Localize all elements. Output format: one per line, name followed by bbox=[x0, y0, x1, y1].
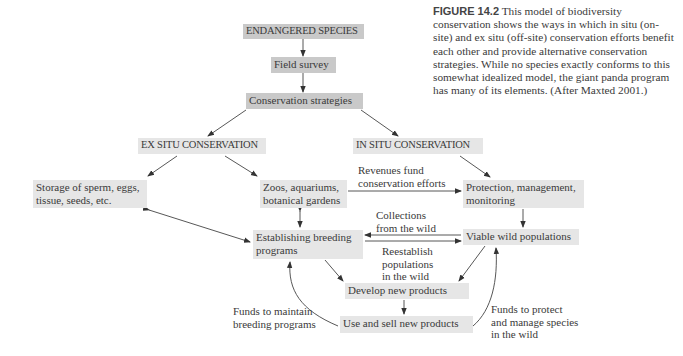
figure-label: FIGURE 14.2 bbox=[433, 5, 499, 17]
node-develop-new-products: Develop new products bbox=[345, 283, 469, 299]
label-collections-line2: from the wild bbox=[376, 222, 436, 235]
arrow-strategies-to-ex-situ bbox=[208, 110, 246, 136]
node-zoos-line2: botanical gardens bbox=[263, 194, 344, 207]
node-zoos-line1: Zoos, aquariums, bbox=[263, 181, 344, 194]
node-field-survey: Field survey bbox=[271, 57, 336, 73]
label-reestablish-line1: Reestablish bbox=[382, 245, 433, 258]
label-revenues: Revenues fund conservation efforts bbox=[358, 164, 445, 189]
arrow-viable-to-develop bbox=[459, 246, 485, 281]
node-storage-line1: Storage of sperm, eggs, bbox=[36, 181, 144, 194]
node-use-sell-products: Use and sell new products bbox=[340, 316, 473, 333]
node-protection: Protection, management, monitoring bbox=[463, 180, 584, 208]
label-funds-protect-line1: Funds to protect bbox=[491, 303, 578, 316]
label-funds-breeding: Funds to maintain breeding programs bbox=[233, 305, 316, 330]
arrow-in-situ-to-protection bbox=[460, 156, 490, 177]
caption-text: This model of biodiversity conservation … bbox=[433, 5, 674, 96]
label-revenues-line2: conservation efforts bbox=[358, 177, 445, 190]
label-reestablish-line2: populations bbox=[382, 258, 433, 271]
arrow-strategies-to-in-situ bbox=[361, 110, 398, 136]
node-in-situ-conservation: IN SITU CONSERVATION bbox=[353, 138, 483, 154]
label-collections-line1: Collections bbox=[376, 209, 436, 222]
label-reestablish-line3: in the wild bbox=[382, 270, 433, 283]
arrow-storage-breeding-bidirectional bbox=[149, 210, 250, 242]
node-ex-situ-conservation: EX SITU CONSERVATION bbox=[138, 138, 266, 154]
label-reestablish: Reestablish populations in the wild bbox=[382, 245, 433, 283]
node-breeding-line2: programs bbox=[256, 244, 360, 257]
label-revenues-line1: Revenues fund bbox=[358, 164, 445, 177]
node-zoos: Zoos, aquariums, botanical gardens bbox=[260, 180, 347, 208]
node-protection-line1: Protection, management, bbox=[466, 181, 581, 194]
node-storage: Storage of sperm, eggs, tissue, seeds, e… bbox=[33, 180, 147, 208]
arrow-ex-situ-to-storage bbox=[148, 156, 177, 176]
node-endangered-species: ENDANGERED SPECIES bbox=[243, 24, 364, 39]
node-breeding-line1: Establishing breeding bbox=[256, 231, 360, 244]
arrow-ex-situ-to-zoos bbox=[225, 156, 257, 176]
label-funds-breeding-line2: breeding programs bbox=[233, 318, 316, 331]
label-funds-protect: Funds to protect and manage species in t… bbox=[491, 303, 578, 341]
node-protection-line2: monitoring bbox=[466, 194, 581, 207]
arrow-breeding-to-develop bbox=[325, 260, 343, 281]
node-viable-wild-populations: Viable wild populations bbox=[463, 229, 579, 245]
label-funds-protect-line2: and manage species bbox=[491, 316, 578, 329]
figure-caption: FIGURE 14.2 This model of biodiversity c… bbox=[433, 5, 678, 97]
node-breeding-programs: Establishing breeding programs bbox=[253, 230, 363, 259]
node-conservation-strategies: Conservation strategies bbox=[246, 93, 363, 109]
label-funds-protect-line3: in the wild bbox=[491, 328, 578, 341]
label-funds-breeding-line1: Funds to maintain bbox=[233, 305, 316, 318]
node-storage-line2: tissue, seeds, etc. bbox=[36, 194, 144, 207]
label-collections: Collections from the wild bbox=[376, 209, 436, 234]
